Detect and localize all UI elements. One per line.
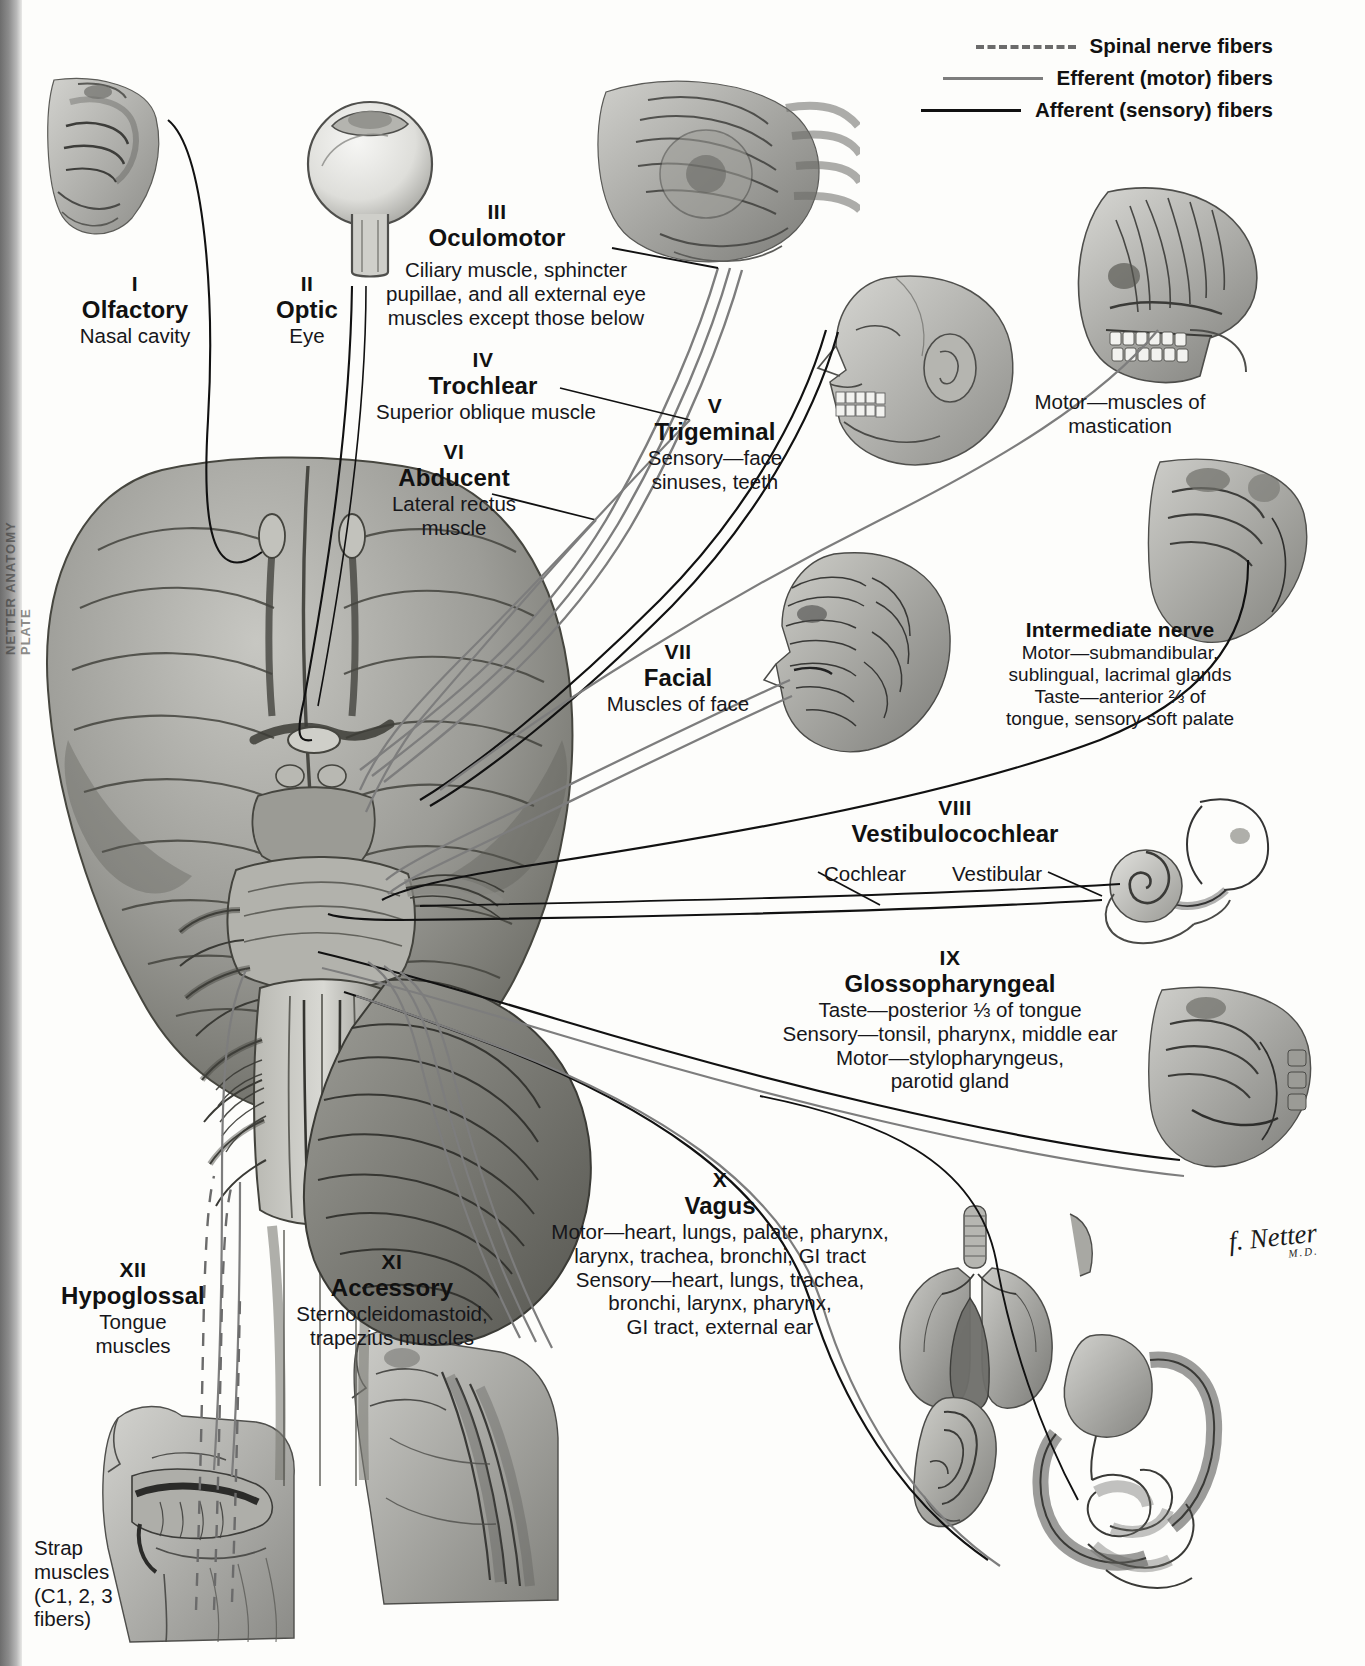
nerve-numeral-vi: VI	[362, 440, 546, 464]
nerve-numeral-iii: III	[378, 200, 616, 224]
vestibular-label: Vestibular	[952, 862, 1092, 886]
nerve-name-facial: Facial	[578, 664, 778, 692]
legend-label-afferent: Afferent (sensory) fibers	[1035, 98, 1273, 122]
nerve-desc-optic: Eye	[232, 324, 382, 348]
nerve-label-facial: VII Facial Muscles of face	[578, 640, 778, 716]
nerve-desc-facial: Muscles of face	[578, 692, 778, 716]
black-line-swatch-icon	[921, 103, 1021, 117]
nerve-desc-hypoglossal: Tongue muscles	[26, 1310, 240, 1358]
nerve-name-abducent: Abducent	[362, 464, 546, 492]
nerve-numeral-ix: IX	[730, 946, 1170, 970]
stomach-intestines-illustration	[1000, 1330, 1280, 1620]
nerve-desc-accessory: Sternocleidomastoid, trapezius muscles	[242, 1302, 542, 1350]
nerve-desc-abducent: Lateral rectus muscle	[362, 492, 546, 540]
nerve-label-hypoglossal: XII Hypoglossal Tongue muscles	[26, 1258, 240, 1358]
nerve-name-optic: Optic	[232, 296, 382, 324]
nerve-numeral-xii: XII	[26, 1258, 240, 1282]
nerve-numeral-ii: II	[232, 272, 382, 296]
nerve-label-trochlear: IV Trochlear	[398, 348, 568, 400]
nerve-desc-glossopharyngeal: Taste—posterior ⅓ of tongue Sensory—tons…	[730, 998, 1170, 1093]
nerve-name-accessory: Accessory	[242, 1274, 542, 1302]
nerve-numeral-x: X	[500, 1168, 940, 1192]
nerve-label-oculomotor: III Oculomotor	[378, 200, 616, 252]
nerve-desc-oculomotor-block: Ciliary muscle, sphincter pupillae, and …	[366, 258, 666, 329]
nerve-label-accessory: XI Accessory Sternocleidomastoid, trapez…	[242, 1250, 542, 1350]
cochlear-text: Cochlear	[824, 862, 954, 886]
page-gutter-strip	[0, 0, 22, 1666]
strap-muscles-text: Strap muscles (C1, 2, 3 fibers)	[34, 1536, 204, 1631]
intermediate-nerve-callout: Intermediate nerve Motor—submandibular, …	[970, 618, 1270, 730]
nerve-label-glossopharyngeal: IX Glossopharyngeal Taste—posterior ⅓ of…	[730, 946, 1170, 1093]
nerve-name-glossopharyngeal: Glossopharyngeal	[730, 970, 1170, 998]
facial-muscles-illustration	[760, 548, 960, 758]
nerve-desc-olfactory: Nasal cavity	[40, 324, 230, 348]
nerve-label-optic: II Optic Eye	[232, 272, 382, 348]
nerve-numeral-viii: VIII	[800, 796, 1110, 820]
nerve-desc-oculomotor: Ciliary muscle, sphincter pupillae, and …	[366, 258, 666, 329]
nerve-label-vestibulocochlear: VIII Vestibulocochlear	[800, 796, 1110, 848]
nasal-cavity-illustration	[36, 72, 176, 242]
nerve-name-vestibulocochlear: Vestibulocochlear	[800, 820, 1110, 848]
nerve-desc-vagus: Motor—heart, lungs, palate, pharynx, lar…	[500, 1220, 940, 1339]
nerve-label-olfactory: I Olfactory Nasal cavity	[40, 272, 230, 348]
intermediate-nerve-body: Motor—submandibular, sublingual, lacrima…	[970, 642, 1270, 730]
nerve-numeral-v: V	[620, 394, 810, 418]
nerve-name-trochlear: Trochlear	[398, 372, 568, 400]
legend: Spinal nerve fibers Efferent (motor) fib…	[921, 30, 1273, 126]
nerve-name-hypoglossal: Hypoglossal	[26, 1282, 240, 1310]
legend-item-efferent: Efferent (motor) fibers	[921, 62, 1273, 94]
legend-item-afferent: Afferent (sensory) fibers	[921, 94, 1273, 126]
cranial-nerves-plate: NETTER ANATOMY PLATE Spinal nerve fibers…	[0, 0, 1365, 1666]
legend-item-spinal: Spinal nerve fibers	[921, 30, 1273, 62]
nerve-numeral-i: I	[40, 272, 230, 296]
nerve-name-olfactory: Olfactory	[40, 296, 230, 324]
external-ear-illustration	[900, 1392, 1010, 1532]
head-sensory-face-illustration	[800, 272, 1030, 472]
nerve-numeral-xi: XI	[242, 1250, 542, 1274]
trigeminal-motor-text: Motor—muscles of mastication	[980, 390, 1260, 438]
nerve-desc-trigeminal: Sensory—face sinuses, teeth	[620, 446, 810, 494]
legend-label-spinal: Spinal nerve fibers	[1090, 34, 1273, 58]
nerve-label-abducent: VI Abducent Lateral rectus muscle	[362, 440, 546, 540]
nerve-name-oculomotor: Oculomotor	[378, 224, 616, 252]
inner-ear-cochlea-illustration	[1090, 790, 1290, 960]
trigeminal-motor-mastication-label: Motor—muscles of mastication	[980, 390, 1260, 438]
intermediate-nerve-title: Intermediate nerve	[970, 618, 1270, 642]
vestibular-text: Vestibular	[952, 862, 1092, 886]
dashed-line-swatch-icon	[976, 39, 1076, 53]
nerve-name-vagus: Vagus	[500, 1192, 940, 1220]
artist-signature: f. Netter M.D.	[1227, 1217, 1319, 1265]
nerve-label-vagus: X Vagus Motor—heart, lungs, palate, phar…	[500, 1168, 940, 1339]
nerve-desc-trochlear-block: Superior oblique muscle	[356, 400, 616, 424]
nerve-numeral-vii: VII	[578, 640, 778, 664]
strap-muscles-callout: Strap muscles (C1, 2, 3 fibers)	[34, 1536, 204, 1631]
nerve-desc-trochlear: Superior oblique muscle	[356, 400, 616, 424]
skull-mastication-illustration	[1050, 180, 1280, 400]
legend-label-efferent: Efferent (motor) fibers	[1057, 66, 1273, 90]
nerve-label-trigeminal: V Trigeminal Sensory—face sinuses, teeth	[620, 394, 810, 494]
cochlear-label: Cochlear	[824, 862, 954, 886]
nerve-numeral-iv: IV	[398, 348, 568, 372]
gray-line-swatch-icon	[943, 71, 1043, 85]
nerve-name-trigeminal: Trigeminal	[620, 418, 810, 446]
